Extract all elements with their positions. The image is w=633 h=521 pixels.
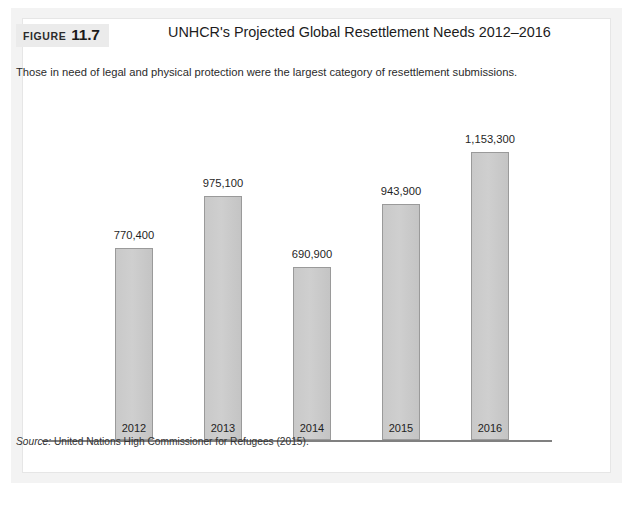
bar-2015 [382, 204, 420, 440]
bar-value-label: 1,153,300 [440, 133, 540, 145]
figure-source: Source: United Nations High Commissioner… [16, 436, 309, 447]
source-label: Source: [16, 436, 51, 447]
figure-container: FIGURE11.7 UNHCR's Projected Global Rese… [0, 0, 633, 521]
bar-category-label: 2015 [382, 422, 420, 434]
bar-value-label: 690,900 [262, 248, 362, 260]
bar-value-label: 943,900 [351, 185, 451, 197]
bar-category-label: 2013 [204, 422, 242, 434]
bar-value-label: 975,100 [173, 177, 273, 189]
bar-2012 [115, 248, 153, 440]
source-text: United Nations High Commissioner for Ref… [54, 436, 309, 447]
bar-category-label: 2016 [471, 422, 509, 434]
bar-chart: 770,4002012975,1002013690,9002014943,900… [22, 18, 611, 473]
bar-2016 [471, 152, 509, 440]
bar-value-label: 770,400 [84, 229, 184, 241]
bar-2014 [293, 267, 331, 440]
bar-2013 [204, 196, 242, 440]
chart-plot-area: 770,4002012975,1002013690,9002014943,900… [22, 18, 611, 473]
bar-category-label: 2014 [293, 422, 331, 434]
bar-category-label: 2012 [115, 422, 153, 434]
